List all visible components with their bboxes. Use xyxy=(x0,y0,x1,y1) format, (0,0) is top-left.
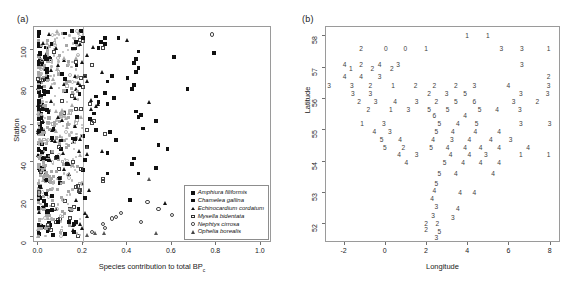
data-point xyxy=(80,60,84,64)
data-point xyxy=(101,179,105,183)
data-point xyxy=(66,194,68,196)
cluster-digit-label: 2 xyxy=(435,221,439,228)
data-point xyxy=(45,41,49,45)
data-point xyxy=(67,60,70,63)
data-point xyxy=(70,103,74,107)
data-point xyxy=(46,138,50,142)
cluster-digit-label: 4 xyxy=(463,144,467,151)
data-point xyxy=(37,39,40,42)
cluster-digit-label: 4 xyxy=(474,129,478,136)
y-tick-label: 58 xyxy=(311,24,318,44)
data-point xyxy=(61,210,64,213)
data-point xyxy=(62,167,66,171)
data-point xyxy=(101,46,105,50)
data-point xyxy=(92,112,96,116)
data-point xyxy=(132,157,136,161)
data-point xyxy=(51,187,53,189)
panel-b-x-axis-title: Longitude xyxy=(325,262,560,271)
data-point xyxy=(53,103,55,105)
cluster-digit-label: 4 xyxy=(454,171,458,178)
cluster-digit-label: 3 xyxy=(327,83,331,90)
data-point xyxy=(50,65,52,67)
data-point xyxy=(154,231,158,235)
data-point xyxy=(44,235,46,237)
data-point xyxy=(46,189,49,192)
x-tickmark xyxy=(426,242,427,245)
data-point xyxy=(45,108,49,112)
data-point xyxy=(77,207,81,211)
data-point xyxy=(50,194,54,198)
data-point xyxy=(37,122,39,124)
cluster-digit-label: 4 xyxy=(373,129,377,136)
data-point xyxy=(53,54,55,56)
data-point xyxy=(54,109,58,113)
data-point xyxy=(62,125,64,127)
cluster-digit-label: 4 xyxy=(467,136,471,143)
data-point xyxy=(60,72,64,76)
y-tickmark xyxy=(30,161,33,162)
y-tick-label: 20 xyxy=(20,188,27,208)
cluster-digit-label: 3 xyxy=(451,215,455,222)
data-point xyxy=(37,66,40,69)
x-tickmark xyxy=(37,242,38,245)
data-point xyxy=(85,79,89,83)
cluster-digit-label: 4 xyxy=(507,83,511,90)
legend-label: Nephtys cirrosa xyxy=(198,221,240,228)
data-point xyxy=(67,176,71,180)
y-tickmark xyxy=(322,223,325,224)
y-tickmark xyxy=(30,236,33,237)
data-point xyxy=(70,166,72,168)
cluster-digit-label: 0 xyxy=(404,46,408,53)
data-point xyxy=(114,215,118,219)
data-point xyxy=(154,166,158,170)
data-point xyxy=(50,177,53,180)
data-point xyxy=(63,32,67,36)
data-point xyxy=(63,115,65,117)
data-point xyxy=(172,55,176,59)
x-tick-label: 4 xyxy=(453,247,481,254)
panel-a-plot-area: Amphiura filiformisChamelea gallinaEchin… xyxy=(33,26,271,242)
data-point xyxy=(47,116,50,119)
cluster-digit-label: 3 xyxy=(434,235,438,242)
legend-item: Chamelea gallina xyxy=(189,197,264,204)
data-point xyxy=(102,231,106,235)
y-tickmark xyxy=(322,129,325,130)
data-point xyxy=(88,102,92,106)
data-point xyxy=(41,100,43,102)
cluster-digit-label: 3 xyxy=(547,83,551,90)
data-point xyxy=(61,198,63,200)
panel-b-plot-area: 1120013314243312244323321222343332353323… xyxy=(325,26,560,242)
x-tick-label: -2 xyxy=(330,247,358,254)
cluster-digit-label: 4 xyxy=(398,136,402,143)
data-point xyxy=(73,148,75,150)
data-point xyxy=(170,213,174,217)
data-point xyxy=(147,177,151,181)
legend-marker-icon xyxy=(189,215,198,218)
cluster-digit-label: 3 xyxy=(548,121,552,128)
data-point xyxy=(57,145,61,149)
cluster-digit-label: 5 xyxy=(380,136,384,143)
y-tick-label: 0 xyxy=(20,225,27,245)
cluster-digit-label: 1 xyxy=(486,33,490,40)
data-point xyxy=(54,95,56,97)
data-point xyxy=(59,139,63,143)
panel-b: (b) 112001331424331224432332122234333235… xyxy=(290,0,578,291)
cluster-digit-label: 6 xyxy=(432,113,436,120)
legend-item: Nephtys cirrosa xyxy=(189,220,264,227)
cluster-digit-label: 0 xyxy=(384,46,388,53)
x-axis-subscript: c xyxy=(203,267,206,273)
data-point xyxy=(76,232,78,234)
data-point xyxy=(79,218,81,220)
data-point xyxy=(81,127,83,129)
data-point xyxy=(60,229,64,233)
data-point xyxy=(41,41,45,45)
data-point xyxy=(44,167,46,169)
data-point xyxy=(44,203,48,207)
y-tickmark xyxy=(30,86,33,87)
cluster-digit-label: 4 xyxy=(456,205,460,212)
data-point xyxy=(85,145,89,149)
cluster-digit-label: 3 xyxy=(374,99,378,106)
data-point xyxy=(60,182,62,184)
data-point xyxy=(147,100,151,104)
legend-item: Ophelia borealis xyxy=(189,228,264,235)
